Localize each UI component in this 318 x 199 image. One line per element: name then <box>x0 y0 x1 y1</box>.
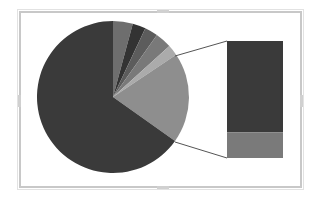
bar-segment[interactable] <box>227 41 283 132</box>
pie-of-bar-chart <box>0 0 318 199</box>
connector-line <box>175 142 227 158</box>
connector-line <box>175 41 227 56</box>
bar-segment[interactable] <box>227 132 283 158</box>
